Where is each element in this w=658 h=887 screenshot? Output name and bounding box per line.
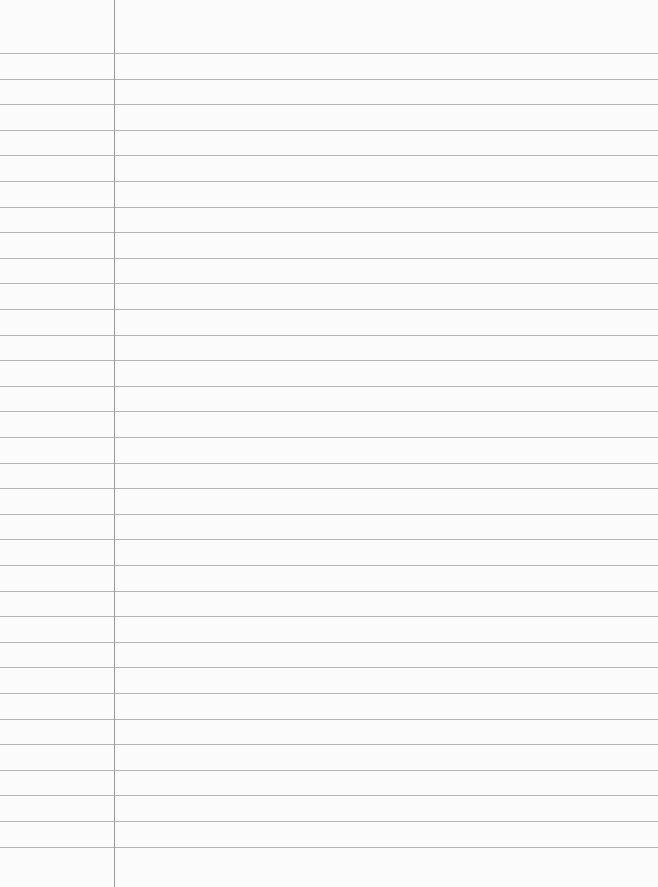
ruled-line (0, 181, 658, 182)
ruled-line (0, 539, 658, 540)
lined-paper (0, 0, 658, 887)
ruled-line (0, 309, 658, 310)
ruled-line (0, 616, 658, 617)
ruled-line (0, 693, 658, 694)
ruled-line (0, 642, 658, 643)
ruled-line (0, 207, 658, 208)
ruled-line (0, 411, 658, 412)
ruled-line (0, 258, 658, 259)
margin-line (114, 0, 115, 887)
ruled-line (0, 79, 658, 80)
ruled-line (0, 53, 658, 54)
ruled-line (0, 360, 658, 361)
ruled-line (0, 104, 658, 105)
ruled-line (0, 463, 658, 464)
ruled-line (0, 437, 658, 438)
ruled-line (0, 847, 658, 848)
ruled-line (0, 283, 658, 284)
ruled-line (0, 770, 658, 771)
ruled-line (0, 795, 658, 796)
ruled-line (0, 514, 658, 515)
ruled-line (0, 744, 658, 745)
ruled-line (0, 386, 658, 387)
ruled-line (0, 335, 658, 336)
ruled-line (0, 719, 658, 720)
ruled-line (0, 130, 658, 131)
ruled-line (0, 667, 658, 668)
ruled-line (0, 488, 658, 489)
ruled-line (0, 591, 658, 592)
ruled-line (0, 565, 658, 566)
ruled-line (0, 232, 658, 233)
ruled-line (0, 821, 658, 822)
ruled-line (0, 155, 658, 156)
